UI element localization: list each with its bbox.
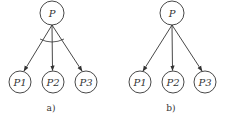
caption-b: b): [166, 103, 175, 113]
edge-p-p2: [52, 25, 53, 71]
edge-p-p3: [52, 25, 82, 71]
edge-p-p1: [24, 25, 52, 71]
tree-diagrams: P P1 P2 P3 a) P P1 P2 P3 b): [0, 0, 226, 120]
node-p2-label: P2: [45, 77, 59, 88]
node-p2-label: P2: [165, 77, 179, 88]
node-p3-label: P3: [78, 77, 92, 88]
edge-p-p3: [172, 25, 202, 71]
node-root-label: P: [168, 8, 176, 19]
caption-a: a): [47, 103, 56, 113]
diagram-b: P P1 P2 P3 b): [129, 1, 216, 113]
node-p3-label: P3: [197, 77, 211, 88]
edge-p-p1: [143, 25, 172, 71]
node-p1-label: P1: [12, 77, 26, 88]
diagram-a: P P1 P2 P3 a): [9, 1, 97, 113]
edge-p-p2: [172, 25, 173, 71]
node-root-label: P: [48, 8, 56, 19]
node-p1-label: P1: [132, 77, 146, 88]
